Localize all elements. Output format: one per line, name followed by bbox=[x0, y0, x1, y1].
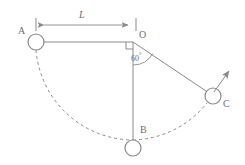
degree-symbol-icon: ° bbox=[139, 52, 141, 58]
diagram-canvas bbox=[0, 0, 245, 165]
velocity-arrow-at-c bbox=[214, 71, 229, 92]
label-point-a: A bbox=[18, 26, 25, 36]
label-point-o: O bbox=[139, 30, 146, 40]
angle-number: 60 bbox=[131, 54, 139, 63]
dimension-line-L bbox=[36, 18, 136, 31]
pendulum-diagram: A L O 60° B C bbox=[0, 0, 245, 165]
label-angle-60: 60° bbox=[131, 52, 141, 63]
bob-a bbox=[28, 34, 44, 50]
trajectory-arc-a-to-b bbox=[36, 50, 133, 140]
bob-b bbox=[125, 140, 141, 156]
bob-c bbox=[205, 88, 221, 104]
rod-oc bbox=[133, 42, 206, 91]
right-angle-marker-icon bbox=[126, 42, 133, 49]
label-point-b: B bbox=[140, 125, 147, 135]
label-dimension-length: L bbox=[79, 10, 85, 20]
label-point-c: C bbox=[223, 99, 230, 109]
